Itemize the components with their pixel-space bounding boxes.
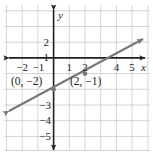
y-tick-label-neg4: −4: [39, 114, 51, 126]
point-annotation-0-neg2: (0, −2): [11, 75, 43, 88]
x-axis-label: x: [140, 61, 146, 73]
y-tick-label-neg3: −3: [39, 99, 51, 111]
x-tick-label-1: 1: [67, 61, 73, 73]
y-tick-label-1: 1: [44, 51, 50, 63]
point-annotation-2-neg1: (2, −1): [70, 75, 102, 88]
data-point-0-neg2: [51, 87, 56, 92]
y-axis-label: y: [57, 9, 63, 21]
x-tick-label-5: 5: [129, 61, 135, 73]
x-tick-label-neg1: −1: [33, 61, 45, 73]
x-tick-label-2: 2: [82, 61, 88, 73]
x-tick-label-4: 4: [114, 61, 120, 73]
y-tick-label-neg5: −5: [39, 130, 51, 142]
x-tick-label-neg2: −2: [16, 61, 28, 73]
graph-canvas: 2 1 −3 −4 −5 −2 −1 1 2 4 5 x y (0, −2) (…: [0, 0, 153, 157]
coordinate-graph-figure: 2 1 −3 −4 −5 −2 −1 1 2 4 5 x y (0, −2) (…: [0, 0, 153, 157]
y-tick-label-2: 2: [44, 36, 50, 48]
